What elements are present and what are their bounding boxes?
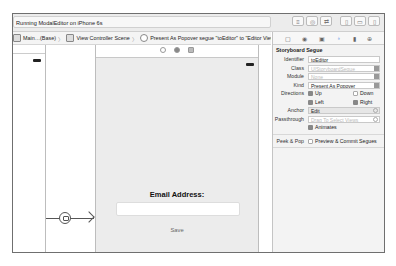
- first-responder-icon[interactable]: [174, 47, 180, 53]
- module-label: Module: [287, 72, 304, 81]
- popover-segue-icon[interactable]: [59, 212, 71, 224]
- editor-view-controller[interactable]: Email Address: Save: [95, 45, 259, 252]
- anchor-connect-icon[interactable]: [373, 108, 378, 113]
- email-text-field[interactable]: [116, 202, 240, 216]
- file-inspector-icon[interactable]: ▢: [285, 35, 291, 42]
- animates-checkbox[interactable]: Animates: [308, 123, 337, 132]
- battery-icon: [33, 59, 41, 62]
- editor-standard-icon[interactable]: ≡: [292, 16, 304, 26]
- identity-inspector-icon[interactable]: ▣: [319, 35, 325, 42]
- kind-label: Kind: [294, 81, 304, 90]
- module-field[interactable]: None: [308, 73, 380, 80]
- passthrough-label: Passthrough: [275, 115, 304, 124]
- version-editor-icon[interactable]: ⇄: [320, 16, 332, 26]
- exit-icon[interactable]: [188, 47, 194, 53]
- anchor-field[interactable]: Edit: [308, 107, 380, 114]
- inspector-tabs: ▢ ◉ ▣ ♁ ▮ ⊕: [273, 32, 384, 45]
- passthrough-connect-icon[interactable]: [373, 117, 378, 122]
- view-controller-icon[interactable]: [160, 47, 166, 53]
- scene-icon: [66, 34, 74, 42]
- class-field[interactable]: UIStoryboardSegue: [308, 65, 380, 72]
- source-view-controller[interactable]: [13, 45, 46, 252]
- class-label: Class: [291, 64, 304, 73]
- xcode-window: Running ModalEditor on iPhone 6s ≡ ◎ ⇄ ▯…: [12, 13, 385, 253]
- section-title: Storyboard Segue: [273, 45, 384, 55]
- toolbar: Running ModalEditor on iPhone 6s ≡ ◎ ⇄ ▯…: [13, 14, 384, 32]
- direction-left-checkbox[interactable]: Left: [308, 98, 324, 107]
- direction-down-checkbox[interactable]: Down: [353, 89, 373, 98]
- kind-stepper-icon[interactable]: [374, 82, 380, 89]
- segue-arrow-icon: [83, 211, 94, 222]
- connections-inspector-icon[interactable]: ⊕: [367, 35, 372, 42]
- debug-area-toggle-icon[interactable]: ▭: [354, 16, 366, 26]
- segue-icon: [140, 34, 148, 42]
- attributes-inspector: ▢ ◉ ▣ ♁ ▮ ⊕ Storyboard Segue Identifier …: [272, 32, 384, 252]
- assistant-editor-icon[interactable]: ◎: [306, 16, 318, 26]
- size-inspector-icon[interactable]: ▮: [353, 35, 356, 42]
- email-label: Email Address:: [96, 190, 258, 199]
- class-dropdown-icon[interactable]: [374, 65, 380, 72]
- run-status: Running ModalEditor on iPhone 6s: [13, 16, 271, 28]
- passthrough-field[interactable]: Drag To Select Views: [308, 116, 380, 123]
- storyboard-canvas[interactable]: Email Address: Save: [13, 45, 271, 252]
- breadcrumb-scene[interactable]: View Controller Scene: [66, 32, 129, 44]
- identifier-label: Identifier: [284, 55, 304, 64]
- navigator-toggle-icon[interactable]: ▯: [340, 16, 352, 26]
- save-button[interactable]: Save: [96, 227, 258, 233]
- scene-dock: [96, 45, 258, 58]
- storyboard-file-icon: [13, 34, 21, 42]
- jump-bar: Main…(Base) 〉 View Controller Scene 〉 Pr…: [13, 32, 271, 45]
- module-dropdown-icon[interactable]: [374, 73, 380, 80]
- kind-select[interactable]: Present As Popover: [308, 82, 380, 89]
- peek-pop-label: Peek & Pop: [277, 137, 304, 146]
- breadcrumb-storyboard[interactable]: Main…(Base): [13, 32, 56, 44]
- preview-commit-checkbox[interactable]: Preview & Commit Segues: [308, 137, 377, 146]
- battery-icon: [246, 63, 254, 66]
- toolbar-buttons: ≡ ◎ ⇄ ▯ ▭ ▯: [292, 16, 380, 26]
- attributes-inspector-icon[interactable]: ♁: [337, 35, 342, 41]
- direction-right-checkbox[interactable]: Right: [353, 98, 372, 107]
- directions-label: Directions: [281, 89, 304, 98]
- breadcrumb-segue[interactable]: Present As Popover segue "toEditor" to "…: [140, 32, 271, 44]
- utilities-toggle-icon[interactable]: ▯: [368, 16, 380, 26]
- quick-help-icon[interactable]: ◉: [302, 35, 307, 42]
- anchor-label: Anchor: [288, 106, 304, 115]
- direction-up-checkbox[interactable]: Up: [308, 89, 322, 98]
- identifier-field[interactable]: toEditor: [308, 56, 380, 63]
